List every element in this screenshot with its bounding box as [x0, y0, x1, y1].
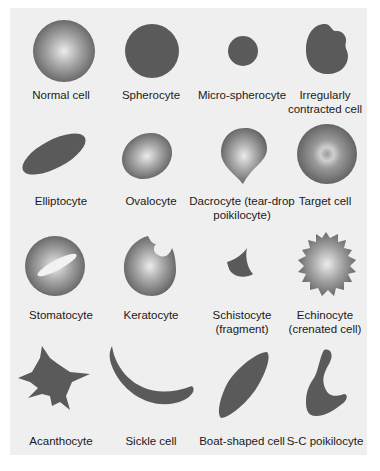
cell-keratocyte: Keratocyte: [104, 232, 198, 344]
dacrocyte-icon: [195, 122, 289, 202]
sickle-cell-icon: [104, 346, 204, 426]
cell-stomatocyte: Stomatocyte: [14, 232, 108, 344]
label-echinocyte: Echinocyte (crenated cell): [272, 308, 378, 336]
target-cell-icon: [278, 122, 372, 202]
cell-echinocyte: Echinocyte (crenated cell): [278, 232, 372, 344]
irregular-cell-icon: [278, 10, 372, 90]
schistocyte-icon: [195, 232, 289, 312]
label-target: Target cell: [272, 194, 378, 208]
ovalocyte-icon: [104, 122, 198, 202]
micro-spherocyte-icon: [195, 10, 289, 90]
cell-spherocyte: Spherocyte: [104, 10, 198, 122]
echinocyte-icon: [278, 232, 372, 312]
elliptocyte-icon: [14, 122, 108, 202]
sc-poikilocyte-icon: [278, 346, 372, 426]
label-sc: S-C poikilocyte: [272, 434, 378, 448]
normal-cell-icon: [14, 10, 108, 90]
cell-elliptocyte: Elliptocyte: [14, 122, 108, 234]
acanthocyte-icon: [14, 346, 108, 426]
label-irregular: Irregularly contracted cell: [272, 88, 378, 116]
cell-dacrocyte: Dacrocyte (tear-drop poikilocyte): [195, 122, 289, 234]
cell-normal: Normal cell: [14, 10, 108, 122]
spherocyte-icon: [104, 10, 198, 90]
stomatocyte-icon: [14, 232, 108, 312]
cell-acanthocyte: Acanthocyte: [14, 346, 108, 458]
cell-ovalocyte: Ovalocyte: [104, 122, 198, 234]
cell-sickle: Sickle cell: [104, 346, 198, 458]
cell-irregular: Irregularly contracted cell: [278, 10, 372, 122]
cell-sc: S-C poikilocyte: [278, 346, 372, 458]
cell-target: Target cell: [278, 122, 372, 234]
keratocyte-icon: [104, 232, 198, 312]
boat-cell-icon: [195, 346, 289, 426]
